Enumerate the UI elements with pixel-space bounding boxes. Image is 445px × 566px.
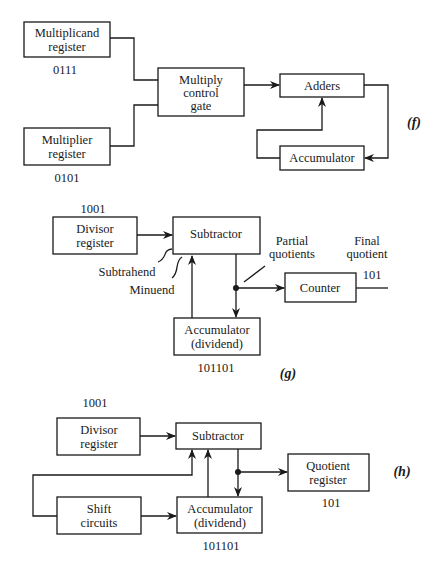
final-quotient-label-1: Final <box>354 234 380 248</box>
multiplicand-value: 0111 <box>53 63 77 77</box>
junction-dot-h <box>235 469 241 475</box>
diagram-f: Multiplicand register 0111 Multiplier re… <box>24 22 421 185</box>
subtractor-label-h: Subtractor <box>192 429 245 443</box>
diagram-canvas: Multiplicand register 0111 Multiplier re… <box>0 0 445 566</box>
multiply-control-gate-box: Multiply control gate <box>158 68 244 116</box>
minuend-leader <box>172 257 182 278</box>
wire-multiplicand-to-gate <box>110 38 158 80</box>
accumulator-box-g: Accumulator (dividend) <box>174 318 260 355</box>
adders-box: Adders <box>280 74 364 97</box>
accumulator-label-2-h: (dividend) <box>194 516 246 530</box>
quotient-label-2: register <box>309 473 347 487</box>
diagram-g: 1001 Divisor register Subtractor Subtrah… <box>53 202 388 382</box>
wire-multiplier-to-gate <box>110 105 158 146</box>
divisor-value-h: 1001 <box>83 396 108 410</box>
divisor-register-box-g: Divisor register <box>53 217 137 254</box>
shift-label-1: Shift <box>87 502 112 516</box>
divisor-label-1-h: Divisor <box>80 423 118 437</box>
caption-g: (g) <box>280 366 296 382</box>
minuend-label: Minuend <box>129 283 175 297</box>
caption-h: (h) <box>393 464 410 480</box>
multiplicand-register-box: Multiplicand register <box>24 22 110 57</box>
accumulator-label-1-g: Accumulator <box>184 323 250 337</box>
quotient-value: 101 <box>322 496 341 510</box>
quotient-label-1: Quotient <box>306 459 350 473</box>
multiplicand-label-1: Multiplicand <box>35 26 100 40</box>
divisor-register-box-h: Divisor register <box>57 418 140 455</box>
accumulator-value-g: 101101 <box>197 361 234 375</box>
divisor-label-2-g: register <box>76 236 114 250</box>
accumulator-box-f: Accumulator <box>280 146 364 170</box>
multiplier-label-2: register <box>48 147 86 161</box>
divisor-value-g: 1001 <box>81 202 106 216</box>
junction-dot-g <box>233 285 239 291</box>
counter-label: Counter <box>300 281 341 295</box>
subtractor-box-g: Subtractor <box>173 217 260 254</box>
subtrahend-leader <box>158 249 172 262</box>
partial-quotients-label-1: Partial <box>276 234 309 248</box>
shift-circuits-box: Shift circuits <box>57 497 141 534</box>
caption-f: (f) <box>407 115 421 131</box>
subtrahend-label: Subtrahend <box>99 265 157 279</box>
gate-label-3: gate <box>191 99 212 113</box>
multiplier-value: 0101 <box>55 171 80 185</box>
accumulator-label-f: Accumulator <box>289 151 355 165</box>
accumulator-label-1-h: Accumulator <box>187 502 253 516</box>
accumulator-value-h: 101101 <box>202 539 239 553</box>
subtractor-label-g: Subtractor <box>190 227 243 241</box>
arrow-adders-to-accumulator <box>364 85 388 158</box>
divisor-label-1-g: Divisor <box>76 222 114 236</box>
subtractor-box-h: Subtractor <box>176 423 261 449</box>
diagram-h: 1001 Divisor register Subtractor Quotien… <box>33 396 411 553</box>
multiplicand-label-2: register <box>48 40 86 54</box>
partial-quotients-leader <box>244 266 265 282</box>
partial-quotients-label-2: quotients <box>269 247 315 261</box>
final-quotient-value: 101 <box>363 268 382 282</box>
gate-label-1: Multiply <box>179 73 224 87</box>
gate-label-2: control <box>183 86 219 100</box>
multiplier-label-1: Multiplier <box>42 133 94 147</box>
adders-label: Adders <box>304 79 340 93</box>
quotient-register-box: Quotient register <box>288 454 369 491</box>
divisor-label-2-h: register <box>80 437 118 451</box>
shift-label-2: circuits <box>81 516 118 530</box>
accumulator-label-2-g: (dividend) <box>191 337 243 351</box>
final-quotient-label-2: quotient <box>347 247 388 261</box>
multiplier-register-box: Multiplier register <box>24 128 110 165</box>
accumulator-box-h: Accumulator (dividend) <box>177 497 262 533</box>
counter-box: Counter <box>285 273 356 302</box>
